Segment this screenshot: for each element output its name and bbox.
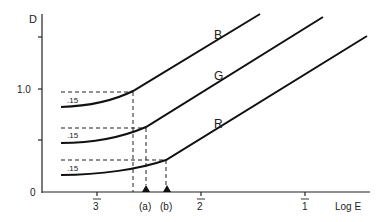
y-tick-label: 1.0 [17, 84, 31, 95]
curve-label-g: G [214, 69, 223, 83]
x-tick-label: 2 [197, 201, 203, 212]
x-tick-label: 3 [93, 201, 99, 212]
y-axis-label: D [29, 13, 37, 25]
x-axis-label: Log E [335, 201, 361, 212]
curve-b [61, 14, 260, 107]
offset-label-r: .15 [67, 164, 79, 173]
offset-label-b: .15 [67, 96, 79, 105]
y-tick-label: 0 [30, 187, 36, 198]
characteristic-curve-chart: D 1.0 0 3 2 1 Log E (a) (b) .15 .15 .15 … [0, 0, 389, 222]
marker-a-triangle [142, 185, 150, 192]
offset-label-g: .15 [67, 131, 79, 140]
x-tick-label: 1 [302, 201, 308, 212]
marker-b-triangle [163, 185, 171, 192]
marker-a-label: (a) [139, 201, 151, 212]
curve-g [61, 17, 323, 143]
marker-b-label: (b) [160, 201, 172, 212]
curve-label-r: R [214, 117, 223, 131]
curve-label-b: B [214, 28, 222, 42]
curve-r [61, 36, 367, 175]
